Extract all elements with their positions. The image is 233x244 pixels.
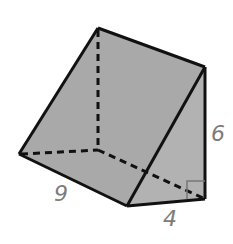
triangular-prism-diagram — [0, 0, 233, 244]
length-label: 9 — [54, 183, 68, 205]
width-label: 4 — [163, 208, 177, 230]
height-label: 6 — [211, 123, 225, 145]
